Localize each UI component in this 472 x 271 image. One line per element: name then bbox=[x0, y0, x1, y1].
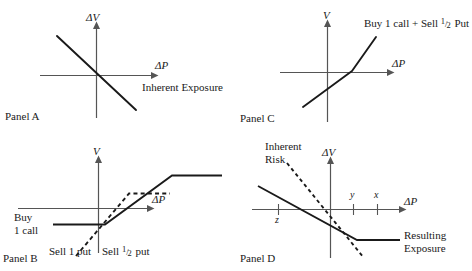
panel-c-plot bbox=[280, 26, 388, 122]
panel-c-y-axis-label: V bbox=[323, 10, 330, 22]
panel-d-tick-label-x: x bbox=[374, 190, 378, 201]
panel-a-caption: Panel A bbox=[5, 111, 40, 123]
panel-c-strategy-suffix: Put bbox=[452, 17, 469, 29]
panel-d-x-axis-label: ΔP bbox=[404, 196, 417, 208]
panel-c-x-axis-label: ΔP bbox=[392, 58, 405, 70]
panel-b-sell-half-prefix: Sell bbox=[102, 245, 122, 257]
panel-b-buy-line-2: 1 call bbox=[14, 224, 38, 237]
panel-d-y-axis-label: ΔV bbox=[322, 147, 335, 159]
panel-b-buy-line-1: Buy bbox=[14, 211, 38, 224]
panel-d-tick-label-z: z bbox=[275, 215, 279, 226]
panel-b-fraction-numerator: 1 bbox=[122, 244, 126, 254]
panel-d-inherent-risk-label: Inherent Risk bbox=[265, 140, 302, 166]
panel-b-plot bbox=[18, 162, 222, 256]
panel-d-resulting-exposure-label: Resulting Exposure bbox=[404, 229, 446, 255]
panel-b-sell-one-put-label: Sell 1 put bbox=[49, 246, 91, 258]
panel-d-inherent-risk-line bbox=[287, 163, 364, 258]
panel-d-resulting-line-1: Resulting bbox=[404, 229, 446, 242]
panel-d-inherent-line-2: Risk bbox=[265, 153, 302, 166]
panel-c-fraction: 1/2 bbox=[441, 20, 452, 29]
panel-b-buy-one-call-line bbox=[53, 176, 222, 225]
panel-c-strategy-label: Buy 1 call + Sell 1/2 Put bbox=[364, 18, 469, 30]
panel-d-caption: Panel D bbox=[240, 253, 275, 265]
figure-vector-layer bbox=[0, 0, 472, 271]
panel-d-tick-label-y: y bbox=[350, 190, 354, 201]
panel-b-caption: Panel B bbox=[3, 253, 38, 265]
figure-root: ΔV ΔP Inherent Exposure Panel A V ΔP Buy… bbox=[0, 0, 472, 271]
panel-c-strategy-prefix: Buy 1 call + Sell bbox=[364, 17, 441, 29]
panel-b-fraction: 1/2 bbox=[122, 248, 133, 257]
panel-d-inherent-line-1: Inherent bbox=[265, 140, 302, 153]
panel-b-sell-half-suffix: put bbox=[133, 245, 150, 257]
panel-c-caption: Panel C bbox=[240, 113, 275, 125]
panel-a-inherent-exposure-label: Inherent Exposure bbox=[142, 82, 223, 94]
panel-b-sell-half-put-label: Sell 1/2 put bbox=[102, 246, 150, 258]
panel-d-resulting-line-2: Exposure bbox=[404, 242, 446, 255]
panel-a-plot bbox=[40, 28, 152, 118]
panel-a-x-axis-label: ΔP bbox=[155, 60, 168, 72]
panel-c-fraction-numerator: 1 bbox=[441, 16, 445, 26]
panel-b-fraction-denominator: 2 bbox=[128, 248, 132, 258]
panel-d-resulting-exposure-line bbox=[258, 186, 400, 240]
panel-a-y-axis-label: ΔV bbox=[86, 12, 99, 24]
panel-b-y-axis-label: V bbox=[93, 146, 100, 158]
panel-d-plot bbox=[252, 163, 400, 258]
panel-b-x-axis-label: ΔP bbox=[152, 194, 165, 206]
panel-c-fraction-denominator: 2 bbox=[446, 20, 450, 30]
panel-b-buy-one-call-label: Buy 1 call bbox=[14, 211, 38, 237]
